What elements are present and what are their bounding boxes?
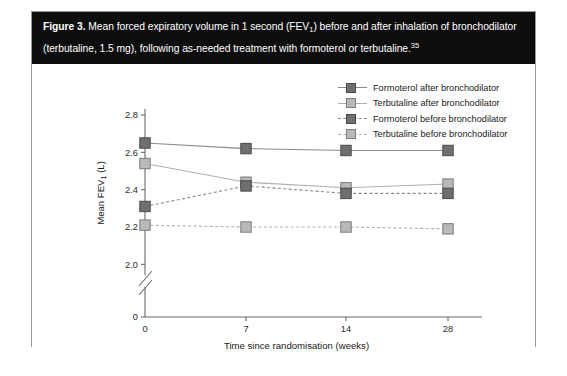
y-axis-tick-label: 2.4 — [125, 185, 138, 195]
svg-text:Mean FEV1 (L): Mean FEV1 (L) — [95, 161, 108, 225]
data-point-marker — [140, 158, 150, 168]
figure-caption: Figure 3. Mean forced expiratory volume … — [32, 12, 535, 64]
x-axis-title: Time since randomisation (weeks) — [224, 340, 369, 351]
data-point-marker — [241, 143, 251, 153]
y-axis-tick-label: 2.6 — [125, 148, 138, 158]
y-axis-title: Mean FEV1 (L) — [95, 161, 108, 225]
data-point-marker — [140, 138, 150, 148]
x-axis-tick-label: 28 — [443, 324, 453, 334]
chart-canvas: 2.82.62.42.22.00071428Time since randomi… — [32, 64, 535, 354]
data-point-marker — [443, 224, 453, 234]
data-point-marker — [443, 188, 453, 198]
caption-text-part1: Mean forced expiratory volume in 1 secon… — [88, 21, 309, 32]
x-axis-tick-label: 7 — [243, 324, 248, 334]
data-point-marker — [140, 201, 150, 211]
plot-area: Formoterol after bronchodilatorTerbutali… — [32, 64, 535, 354]
x-axis-tick-label: 14 — [341, 324, 351, 334]
series-line — [145, 186, 448, 207]
y-axis-tick-label: 2.0 — [125, 260, 138, 270]
data-point-marker — [341, 222, 351, 232]
data-point-marker — [241, 181, 251, 191]
y-axis-tick-label: 2.2 — [125, 222, 138, 232]
data-point-marker — [241, 222, 251, 232]
series-group — [140, 138, 453, 234]
series-line — [145, 225, 448, 229]
series-line — [145, 143, 448, 150]
data-point-marker — [341, 188, 351, 198]
data-point-marker — [443, 145, 453, 155]
y-axis-tick-label: 2.8 — [125, 110, 138, 120]
figure-label: Figure 3. — [43, 21, 85, 32]
data-point-marker — [341, 145, 351, 155]
series-line — [145, 164, 448, 188]
x-axis-tick-label: 0 — [142, 324, 147, 334]
data-point-marker — [140, 220, 150, 230]
figure-panel: Figure 3. Mean forced expiratory volume … — [31, 11, 536, 347]
caption-reference: 35 — [411, 41, 419, 50]
axes-group — [139, 109, 482, 321]
y-axis-zero-label: 0 — [133, 312, 138, 322]
